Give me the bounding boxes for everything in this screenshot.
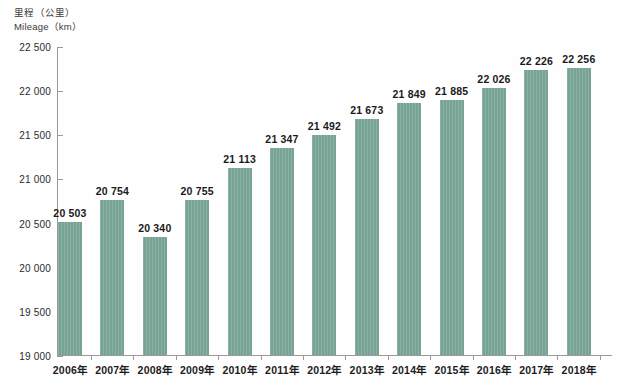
x-axis-tick: [261, 356, 262, 360]
plot-area: 20 50320 75420 34020 75521 11321 34721 4…: [57, 47, 612, 356]
x-axis-category-label: 2018年: [562, 362, 596, 377]
bar: [397, 103, 421, 355]
x-axis-category-label: 2015年: [434, 362, 468, 377]
x-axis-tick: [303, 356, 304, 360]
x-axis-tick: [91, 356, 92, 360]
x-axis-tick: [133, 356, 134, 360]
x-axis-tick: [388, 356, 389, 360]
bar-value-label: 22 026: [477, 73, 510, 85]
y-axis-tick-label: 21 000: [10, 174, 51, 185]
x-axis-line: [57, 355, 612, 356]
x-axis-tick: [557, 356, 558, 360]
x-axis-category-label: 2009年: [180, 362, 214, 377]
x-axis-tick: [515, 356, 516, 360]
x-axis-tick: [176, 356, 177, 360]
bar: [482, 88, 506, 355]
y-axis-tick-label: 19 000: [10, 351, 51, 362]
x-axis-tick: [345, 356, 346, 360]
y-axis-tick-label: 22 500: [10, 42, 51, 53]
axis-title: 里程（公里） Mileage（km）: [14, 6, 82, 34]
x-axis-category-label: 2017年: [519, 362, 553, 377]
x-axis-category-label: 2016年: [477, 362, 511, 377]
y-axis-tick-label: 21 500: [10, 130, 51, 141]
y-axis-tick-label: 19 500: [10, 306, 51, 317]
x-axis-category-label: 2007年: [95, 362, 129, 377]
bar-value-label: 20 340: [138, 222, 171, 234]
y-axis-tick: [57, 179, 63, 180]
bar-chart-figure: 里程（公里） Mileage（km） 22 50022 00021 50021 …: [0, 0, 622, 391]
bar: [524, 70, 548, 355]
bar-value-label: 20 503: [53, 207, 86, 219]
bar: [143, 237, 167, 355]
x-axis-category-label: 2010年: [222, 362, 256, 377]
bar: [270, 148, 294, 355]
x-axis-tick: [430, 356, 431, 360]
bar-value-label: 21 347: [265, 133, 298, 145]
bar: [58, 222, 82, 355]
bar: [440, 100, 464, 355]
bar-value-label: 21 885: [435, 85, 468, 97]
y-axis-tick-label: 20 000: [10, 262, 51, 273]
x-axis-category-label: 2012年: [307, 362, 341, 377]
bar-value-label: 21 113: [223, 153, 256, 165]
y-axis-tick: [57, 356, 63, 357]
bar-value-label: 21 492: [308, 120, 341, 132]
bar-value-label: 20 755: [181, 185, 214, 197]
bar-value-label: 21 849: [393, 88, 426, 100]
x-axis-category-label: 2011年: [265, 362, 299, 377]
bar: [567, 68, 591, 355]
bar-value-label: 21 673: [350, 104, 383, 116]
x-axis-category-label: 2008年: [138, 362, 172, 377]
bar: [355, 119, 379, 355]
x-axis-tick: [473, 356, 474, 360]
y-axis-tick: [57, 91, 63, 92]
y-axis-tick: [57, 47, 63, 48]
bar: [228, 168, 252, 355]
x-axis-category-label: 2014年: [392, 362, 426, 377]
x-axis-tick: [600, 356, 601, 360]
axis-title-line-chinese: 里程（公里）: [14, 6, 82, 20]
bar-value-label: 22 226: [520, 55, 553, 67]
x-axis-tick: [218, 356, 219, 360]
x-axis-category-label: 2006年: [53, 362, 87, 377]
bar: [312, 135, 336, 355]
y-axis-tick-label: 20 500: [10, 218, 51, 229]
bar-value-label: 20 754: [96, 185, 129, 197]
bar: [100, 200, 124, 355]
x-axis-category-label: 2013年: [350, 362, 384, 377]
axis-title-line-english: Mileage（km）: [14, 20, 82, 34]
y-axis-tick-label: 22 000: [10, 86, 51, 97]
y-axis-tick: [57, 135, 63, 136]
bar-value-label: 22 256: [562, 53, 595, 65]
bar: [185, 200, 209, 355]
